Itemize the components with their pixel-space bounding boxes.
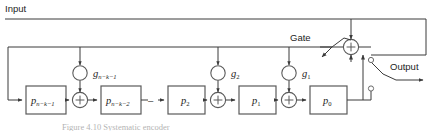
register-p-n-k-2: pn−k−2 <box>101 86 141 114</box>
output-label: Output <box>390 61 419 72</box>
output-switch-lower-lead <box>383 74 396 80</box>
switch-contact-upper <box>368 57 373 62</box>
adder-left <box>72 92 87 107</box>
register-p-2: p2 <box>168 86 205 114</box>
input-rail <box>5 19 426 39</box>
tap-circle <box>211 66 225 80</box>
figure-caption: Figure 4.10 Systematic encoder <box>62 122 170 131</box>
caption-band: Figure 4.10 Systematic encoder <box>0 122 431 131</box>
tap-label-g-n-k-1: gn−k−1 <box>93 68 117 80</box>
lfsr-encoder-diagram: gn−k−1 g2 g1 pn−k−1 p <box>0 0 431 131</box>
adder-right <box>281 92 296 107</box>
input-label: Input <box>5 3 26 14</box>
gate-label: Gate <box>290 32 311 43</box>
tap-circle <box>73 66 87 80</box>
tap-drop-wires <box>80 47 289 65</box>
output-switch-blade <box>371 62 383 74</box>
register-p-n-k-1: pn−k−1 <box>26 86 66 114</box>
adder-mid <box>210 92 225 107</box>
tap-multiplier-g-1: g1 <box>282 66 311 92</box>
gate-switch-arrow-lead <box>322 47 332 57</box>
right-return-path <box>371 19 426 55</box>
figure-root: gn−k−1 g2 g1 pn−k−1 p <box>0 0 431 131</box>
register-p-1: p1 <box>239 86 276 114</box>
gate-switch-blade <box>332 38 344 47</box>
switch-contact-lower <box>368 86 373 91</box>
tap-multiplier-g-2: g2 <box>211 66 240 92</box>
tap-circle <box>282 66 296 80</box>
tap-label-g-2: g2 <box>231 68 240 80</box>
tap-label-g-1: g1 <box>302 68 311 80</box>
register-p-0: p0 <box>310 86 347 114</box>
ellipsis-dash: – <box>148 95 154 106</box>
gate-switch[interactable]: Gate <box>290 32 351 57</box>
adder-gate <box>343 39 358 62</box>
